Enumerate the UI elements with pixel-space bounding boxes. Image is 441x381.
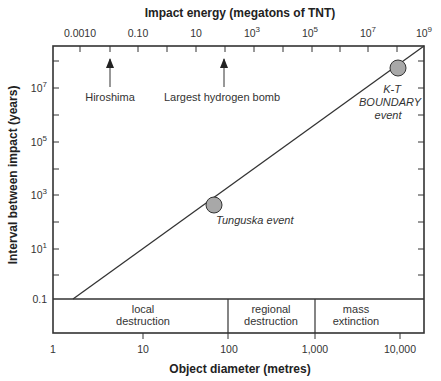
kt-label-line2: BOUNDARY xyxy=(359,96,422,108)
top-axis-title: Impact energy (megatons of TNT) xyxy=(145,6,336,20)
top-tick: 0.10 xyxy=(128,27,149,39)
y-tick: 107 xyxy=(31,80,48,94)
y-tick: 101 xyxy=(31,241,48,255)
bottom-tick-marks xyxy=(143,333,400,339)
y-tick: 103 xyxy=(31,187,48,201)
y-tick: 0.1 xyxy=(32,293,47,305)
band-local-line1: local xyxy=(132,303,155,315)
x-tick: 10 xyxy=(137,343,149,355)
hiroshima-annotation: Hiroshima xyxy=(85,58,135,103)
destruction-bands: local destruction regional destruction m… xyxy=(116,303,379,327)
top-tick: 109 xyxy=(416,25,433,39)
y-axis-title: Interval between impact (years) xyxy=(6,86,20,265)
top-tick: 0.0010 xyxy=(64,27,96,39)
plot-frame xyxy=(53,46,424,333)
y-axis-ticks: 107 105 103 101 0.1 xyxy=(31,80,48,305)
right-tick-marks xyxy=(418,61,424,275)
x-axis-title: Object diameter (metres) xyxy=(169,362,310,376)
impact-chart: Impact energy (megatons of TNT) 0.0010 0… xyxy=(0,0,441,381)
trend-line xyxy=(73,46,424,299)
x-tick: 1,000 xyxy=(302,343,328,355)
top-axis-ticks: 0.0010 0.10 10 103 105 107 109 xyxy=(64,25,433,39)
band-regional-line1: regional xyxy=(251,303,290,315)
top-tick: 103 xyxy=(244,25,261,39)
band-mass-line2: extinction xyxy=(333,315,379,327)
band-local-line2: destruction xyxy=(116,315,170,327)
top-tick-marks xyxy=(80,46,397,52)
hiroshima-label: Hiroshima xyxy=(85,91,135,103)
x-tick: 100 xyxy=(220,343,238,355)
kt-label-line3: event xyxy=(375,109,403,121)
tunguska-marker xyxy=(206,197,222,213)
x-tick: 10,000 xyxy=(384,343,416,355)
arrow-head-icon xyxy=(220,58,228,68)
band-regional-line2: destruction xyxy=(244,315,298,327)
left-tick-marks xyxy=(53,61,59,275)
x-tick: 1 xyxy=(50,343,56,355)
hydrogen-bomb-annotation: Largest hydrogen bomb xyxy=(164,58,280,103)
kt-boundary-marker xyxy=(390,60,406,76)
arrow-head-icon xyxy=(106,58,114,68)
band-mass-line1: mass xyxy=(343,303,370,315)
tunguska-label: Tunguska event xyxy=(216,214,294,226)
top-tick: 10 xyxy=(190,27,202,39)
x-axis-ticks: 1 10 100 1,000 10,000 xyxy=(50,343,416,355)
kt-label-line1: K-T xyxy=(383,83,402,95)
y-tick: 105 xyxy=(31,134,48,148)
hbomb-label: Largest hydrogen bomb xyxy=(164,91,280,103)
top-tick: 105 xyxy=(302,25,319,39)
top-tick: 107 xyxy=(360,25,377,39)
